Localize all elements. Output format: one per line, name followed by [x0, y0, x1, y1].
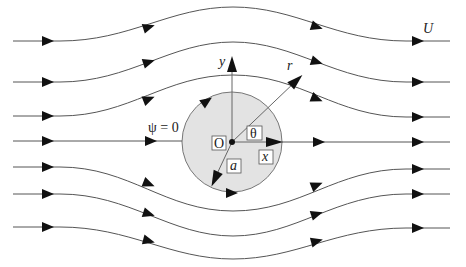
origin-label: O	[214, 136, 224, 151]
arrow-icon	[310, 235, 324, 248]
arrow-icon	[42, 77, 54, 87]
arrow-icon	[42, 222, 54, 232]
streamline-6	[13, 194, 450, 236]
arrow-icon	[42, 111, 54, 121]
arrow-icon	[142, 55, 157, 68]
arrow-icon	[42, 162, 54, 172]
arrow-icon	[412, 164, 424, 174]
radial-label: r	[287, 58, 293, 73]
arrow-icon	[145, 136, 157, 146]
arrow-icon	[142, 235, 156, 248]
free-stream-label: U	[423, 21, 434, 36]
arrow-icon	[142, 207, 157, 220]
arrow-icon	[412, 36, 424, 46]
arrow-icon	[310, 55, 325, 68]
arrow-icon	[310, 92, 325, 106]
y-axis-label: y	[217, 54, 226, 69]
stagnation-streamline-label: ψ = 0	[148, 120, 179, 135]
streamline-7	[13, 227, 450, 259]
x-axis-label: x	[261, 149, 269, 164]
arrow-icon	[42, 189, 54, 199]
arrow-icon	[412, 112, 424, 122]
streamline-1	[13, 7, 450, 41]
arrow-icon	[412, 223, 424, 233]
arrow-icon	[42, 136, 54, 146]
arrow-icon	[310, 207, 325, 220]
arrow-icon	[313, 137, 325, 147]
arrow-icon	[412, 137, 424, 147]
origin-dot	[229, 139, 235, 145]
arrow-icon	[42, 36, 54, 46]
potential-flow-diagram: U ψ = 0 y r O θ x a	[0, 0, 466, 267]
angle-label: θ	[250, 126, 257, 141]
y-axis-arrow-icon	[227, 56, 237, 72]
arrow-icon	[412, 77, 424, 87]
arrow-icon	[142, 177, 157, 191]
arrow-icon	[142, 92, 157, 106]
radius-label: a	[230, 158, 237, 173]
arrow-icon	[412, 189, 424, 199]
arrow-icon	[310, 178, 325, 192]
